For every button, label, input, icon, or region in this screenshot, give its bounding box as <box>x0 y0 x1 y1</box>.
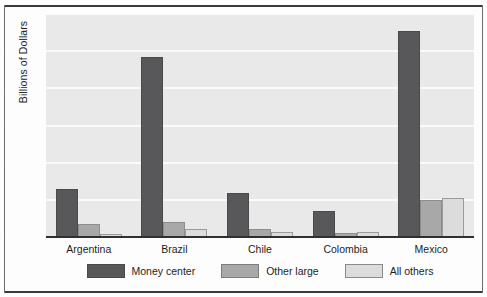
legend-item[interactable]: All others <box>345 264 434 278</box>
bar[interactable] <box>227 193 249 237</box>
legend-swatch <box>87 264 125 278</box>
bar[interactable] <box>56 189 78 237</box>
x-axis-category-label: Brazil <box>132 243 218 255</box>
figure-frame-bottom <box>4 291 483 293</box>
bar-group-bars <box>303 14 389 237</box>
legend-swatch <box>221 264 259 278</box>
y-axis-title: Billions of Dollars <box>17 0 29 137</box>
figure-frame-top <box>4 5 483 7</box>
figure-frame-right <box>482 5 483 293</box>
figure-frame-left <box>4 5 5 293</box>
legend-label: Other large <box>266 265 319 277</box>
bar-group <box>132 14 218 237</box>
x-axis-category-label: Mexico <box>388 243 474 255</box>
bar[interactable] <box>398 31 420 237</box>
x-axis-category-label: Argentina <box>46 243 132 255</box>
chart-legend: Money centerOther largeAll others <box>46 264 474 278</box>
legend-label: All others <box>390 265 434 277</box>
x-axis-category-label: Colombia <box>303 243 389 255</box>
bar-group <box>46 14 132 237</box>
x-axis-line <box>46 236 474 238</box>
bar-group-bars <box>132 14 218 237</box>
bar-group <box>217 14 303 237</box>
legend-item[interactable]: Other large <box>221 264 319 278</box>
bar[interactable] <box>141 57 163 237</box>
bar-group <box>303 14 389 237</box>
plot-area: 024681012 ArgentinaBrazilChileColombiaMe… <box>46 14 474 237</box>
legend-item[interactable]: Money center <box>87 264 196 278</box>
chart-figure: Billions of Dollars 024681012 ArgentinaB… <box>0 0 487 297</box>
bar-group-bars <box>388 14 474 237</box>
legend-swatch <box>345 264 383 278</box>
plot-background <box>46 14 474 237</box>
bar[interactable] <box>163 222 185 237</box>
legend-label: Money center <box>132 265 196 277</box>
bar-groups <box>46 14 474 237</box>
bar[interactable] <box>442 198 464 237</box>
x-axis-category-label: Chile <box>217 243 303 255</box>
bar[interactable] <box>313 211 335 237</box>
bar-group <box>388 14 474 237</box>
bar-group-bars <box>46 14 132 237</box>
bar-group-bars <box>217 14 303 237</box>
bar[interactable] <box>420 200 442 237</box>
